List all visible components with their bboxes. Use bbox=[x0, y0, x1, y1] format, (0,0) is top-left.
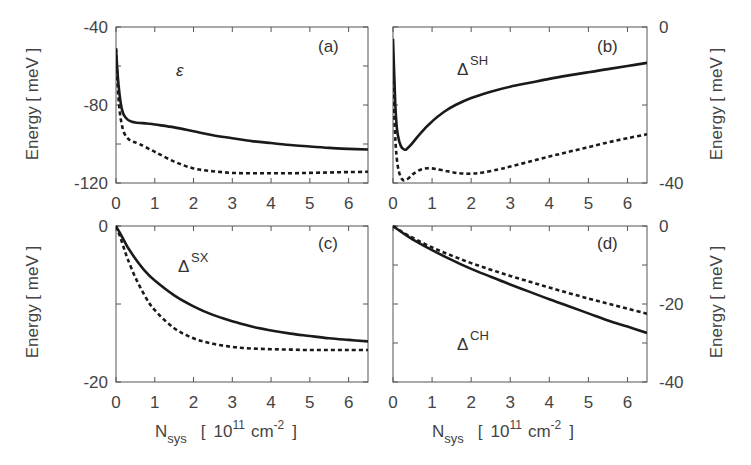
quantity-label-a: ε bbox=[176, 61, 184, 80]
x-tick-label: 2 bbox=[189, 194, 198, 213]
y-axis-title-a: Energy [ meV ] bbox=[23, 48, 42, 160]
x-tick-label: 4 bbox=[266, 194, 275, 213]
y-tick-label: -40 bbox=[83, 18, 108, 37]
quantity-label-d: Δ CH bbox=[457, 328, 489, 354]
x-tick-label: 5 bbox=[584, 393, 593, 412]
dashed-curve bbox=[116, 48, 368, 173]
y-tick-label: 0 bbox=[659, 217, 668, 236]
y-tick-label: -40 bbox=[659, 373, 684, 392]
dashed-curve bbox=[393, 74, 647, 181]
x-tick-label: 6 bbox=[344, 393, 353, 412]
x-axis-title-d: Nsys[1011cm-2] bbox=[432, 418, 574, 446]
y-tick-label: -120 bbox=[74, 174, 108, 193]
panel-d: 01234560-20-40 bbox=[388, 217, 683, 412]
x-tick-label: 4 bbox=[545, 194, 554, 213]
x-tick-label: 0 bbox=[388, 393, 397, 412]
x-axis-title-c: Nsys[1011cm-2] bbox=[155, 418, 297, 446]
y-tick-label: 0 bbox=[659, 18, 668, 37]
x-tick-label: 3 bbox=[228, 393, 237, 412]
x-tick-label: 0 bbox=[388, 194, 397, 213]
x-tick-label: 4 bbox=[545, 393, 554, 412]
x-tick-label: 1 bbox=[427, 393, 436, 412]
x-tick-label: 2 bbox=[466, 393, 475, 412]
x-tick-label: 1 bbox=[150, 393, 159, 412]
delta-symbol: Δ bbox=[457, 335, 468, 354]
quantity-label-b: Δ SH bbox=[457, 53, 488, 79]
x-tick-label: 4 bbox=[266, 393, 275, 412]
y-tick-label: 0 bbox=[99, 217, 108, 236]
x-tick-label: 0 bbox=[111, 194, 120, 213]
panel-label-c: (c) bbox=[318, 234, 338, 253]
x-tick-label: 3 bbox=[228, 194, 237, 213]
y-axis-title-d: Energy [ meV ] bbox=[707, 246, 726, 358]
delta-symbol: Δ bbox=[178, 257, 189, 276]
superscript: SX bbox=[191, 250, 209, 265]
x-tick-label: 2 bbox=[189, 393, 198, 412]
figure: 0123456-40-80-120 01234560-40 01234560-2… bbox=[0, 0, 751, 465]
x-tick-label: 3 bbox=[505, 194, 514, 213]
x-tick-label: 5 bbox=[305, 194, 314, 213]
y-tick-label: -40 bbox=[659, 174, 684, 193]
x-tick-label: 6 bbox=[623, 194, 632, 213]
x-tick-label: 3 bbox=[505, 393, 514, 412]
superscript: SH bbox=[470, 53, 488, 68]
delta-symbol: Δ bbox=[457, 60, 468, 79]
y-tick-label: -80 bbox=[83, 96, 108, 115]
x-tick-label: 2 bbox=[466, 194, 475, 213]
svg-text:Nsys[1011cm-2]: Nsys[1011cm-2] bbox=[432, 418, 574, 446]
panel-label-b: (b) bbox=[597, 37, 618, 56]
svg-text:Nsys[1011cm-2]: Nsys[1011cm-2] bbox=[155, 418, 297, 446]
quantity-label-c: Δ SX bbox=[178, 250, 209, 276]
y-axis-title-c: Energy [ meV ] bbox=[23, 246, 42, 358]
panel-label-a: (a) bbox=[318, 37, 339, 56]
x-tick-label: 5 bbox=[584, 194, 593, 213]
y-tick-label: -20 bbox=[659, 295, 684, 314]
x-tick-label: 6 bbox=[344, 194, 353, 213]
panel-b: 01234560-40 bbox=[388, 18, 683, 213]
x-tick-label: 6 bbox=[623, 393, 632, 412]
x-tick-label: 0 bbox=[111, 393, 120, 412]
y-axis-title-b: Energy [ meV ] bbox=[707, 48, 726, 160]
solid-curve bbox=[116, 48, 368, 149]
x-tick-label: 1 bbox=[427, 194, 436, 213]
panel-label-d: (d) bbox=[597, 234, 618, 253]
x-tick-label: 1 bbox=[150, 194, 159, 213]
y-tick-label: -20 bbox=[83, 373, 108, 392]
superscript: CH bbox=[470, 328, 489, 343]
x-tick-label: 5 bbox=[305, 393, 314, 412]
